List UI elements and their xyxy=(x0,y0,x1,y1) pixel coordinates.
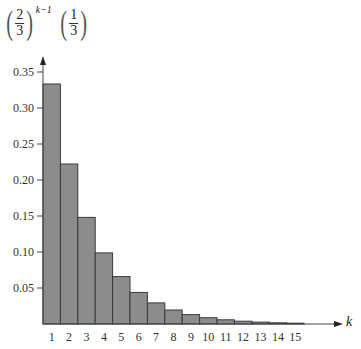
bar-k-8 xyxy=(165,310,182,324)
y-tick-label: 0.30 xyxy=(13,101,34,115)
x-tick-label: 9 xyxy=(188,330,194,344)
bar-k-9 xyxy=(182,315,199,324)
y-tick-label: 0.20 xyxy=(13,173,34,187)
x-tick-label: 2 xyxy=(66,330,72,344)
x-tick-label: 13 xyxy=(255,330,267,344)
x-tick-label: 14 xyxy=(272,330,284,344)
y-tick-label: 0.10 xyxy=(13,245,34,259)
bar-k-7 xyxy=(147,303,164,324)
y-tick-label: 0.25 xyxy=(13,137,34,151)
y-axis-arrow-icon xyxy=(40,56,46,65)
bar-k-10 xyxy=(200,318,217,324)
bar-k-1 xyxy=(43,84,60,324)
bar-k-2 xyxy=(60,164,77,324)
x-tick-label: 6 xyxy=(136,330,142,344)
bars-group xyxy=(43,84,304,324)
x-tick-label: 7 xyxy=(153,330,159,344)
bar-chart: 0.050.100.150.200.250.300.35 12345678910… xyxy=(0,0,361,349)
bar-k-5 xyxy=(113,277,130,324)
x-tick-label: 15 xyxy=(289,330,301,344)
x-tick-label: 3 xyxy=(84,330,90,344)
y-tick-label: 0.35 xyxy=(13,65,34,79)
x-tick-label: 4 xyxy=(101,330,107,344)
x-tick-label: 10 xyxy=(202,330,214,344)
y-tick-label: 0.15 xyxy=(13,209,34,223)
x-axis-label: k xyxy=(346,314,352,330)
x-axis-arrow-icon xyxy=(334,321,343,327)
x-ticks-group: 123456789101112131415 xyxy=(49,330,302,344)
y-ticks-group: 0.050.100.150.200.250.300.35 xyxy=(13,65,43,295)
x-tick-label: 1 xyxy=(49,330,55,344)
x-tick-label: 8 xyxy=(171,330,177,344)
x-tick-label: 5 xyxy=(118,330,124,344)
y-tick-label: 0.05 xyxy=(13,281,34,295)
bar-k-6 xyxy=(130,292,147,324)
x-tick-label: 12 xyxy=(237,330,249,344)
bar-k-4 xyxy=(95,253,112,324)
x-tick-label: 11 xyxy=(220,330,232,344)
bar-k-11 xyxy=(217,320,234,324)
bar-k-3 xyxy=(78,217,95,324)
